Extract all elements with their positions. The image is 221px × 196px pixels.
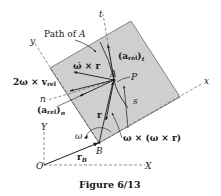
centripetal-label: ω × (ω × r) bbox=[123, 133, 181, 143]
path-of-A-label: Path of A bbox=[44, 29, 86, 39]
y-axis-label: y bbox=[29, 36, 36, 46]
figure-caption: Figure 6/13 bbox=[79, 179, 141, 190]
figure-6-13: Path of A (arel)t ω̇ × r A P 2ω × vrel n… bbox=[0, 0, 221, 196]
point-P-label: P bbox=[130, 72, 138, 82]
a-rel-n-label: (arel)n bbox=[37, 105, 65, 116]
diagram-canvas: Path of A (arel)t ω̇ × r A P 2ω × vrel n… bbox=[0, 0, 221, 196]
two-omega-x-vrel-label: 2ω × vrel bbox=[13, 77, 57, 87]
omega-label: ω bbox=[75, 131, 83, 141]
omega-dot-x-r-label: ω̇ × r bbox=[73, 61, 100, 71]
rB-vector bbox=[44, 143, 98, 165]
point-B-label: B bbox=[95, 146, 103, 156]
Y-axis-label: Y bbox=[41, 122, 48, 132]
X-axis-label: X bbox=[144, 161, 152, 171]
n-axis-label: n bbox=[40, 94, 46, 104]
x-axis-label: x bbox=[204, 76, 209, 86]
r-vector-label: r bbox=[97, 110, 102, 120]
point-B-dot bbox=[98, 142, 100, 144]
s-coordinate-label: s bbox=[133, 96, 138, 106]
t-axis-label: t bbox=[99, 9, 103, 19]
origin-O-label: O bbox=[36, 161, 44, 171]
rotating-plate bbox=[50, 21, 180, 143]
point-A-label: A bbox=[109, 69, 117, 79]
rB-label: rB bbox=[77, 152, 87, 163]
